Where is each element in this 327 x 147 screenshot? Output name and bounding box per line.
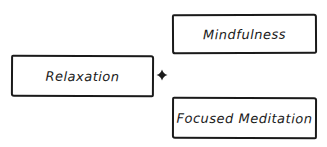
plus-junction-icon	[156, 69, 168, 81]
node-relaxation: Relaxation	[11, 55, 154, 98]
node-label: Mindfulness	[203, 26, 286, 41]
node-label: Relaxation	[45, 68, 119, 83]
node-focused-meditation: Focused Meditation	[172, 97, 317, 140]
node-mindfulness: Mindfulness	[172, 14, 317, 55]
node-label: Focused Meditation	[176, 110, 312, 125]
